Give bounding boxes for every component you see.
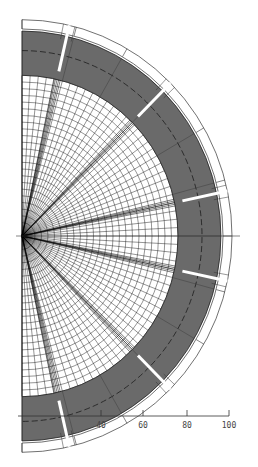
axis-tick-label: 100 (222, 421, 237, 430)
axis-tick-label: 40 (96, 421, 106, 430)
polar-mesh-diagram: 40 60 80 100 (0, 0, 258, 467)
axis-tick-label: 80 (182, 421, 192, 430)
axis-tick-label: 60 (138, 421, 148, 430)
